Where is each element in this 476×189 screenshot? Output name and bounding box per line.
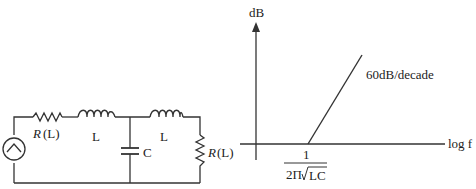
y-axis-arrow-icon [252, 22, 260, 32]
inductor-1-icon [78, 110, 115, 117]
series-resistor-icon [33, 113, 62, 121]
load-resistor-label: R(L) [207, 145, 234, 160]
asymptote-line [308, 55, 362, 144]
corner-numerator: 1 [303, 147, 310, 162]
corner-denominator-prefix: 2Π [286, 167, 302, 182]
inductor-2-label: L [160, 129, 168, 144]
y-axis-label: dB [249, 5, 265, 20]
circuit-schematic [3, 110, 204, 183]
wire [183, 117, 200, 135]
ac-source-icon [3, 138, 25, 160]
x-axis-label: log f [448, 136, 473, 151]
load-resistor-icon [196, 135, 204, 183]
wire-top-left [14, 117, 33, 135]
inductor-1-label: L [92, 129, 100, 144]
corner-denominator-radicand: LC [309, 168, 326, 183]
inductor-2-icon [150, 110, 183, 117]
series-resistor-label: R(L) [32, 126, 60, 141]
diagram-canvas: R(L) L L C R(L) dB log f 60dB/decade 1 2… [0, 0, 476, 189]
slope-label: 60dB/decade [366, 67, 434, 82]
capacitor-label: C [143, 145, 152, 160]
ac-source-wave [7, 144, 21, 152]
bode-plot [240, 30, 445, 163]
